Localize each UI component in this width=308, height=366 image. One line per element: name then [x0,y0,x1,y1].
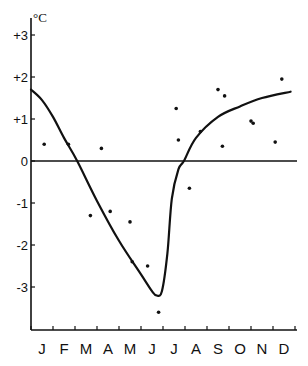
data-point [177,138,181,142]
data-point [146,264,150,268]
data-point [108,210,112,214]
data-points [42,77,283,314]
month-label: A [103,340,113,357]
month-label: S [213,340,223,357]
month-label: A [191,340,201,357]
month-label: J [170,340,178,357]
y-tick-label: +3 [13,28,28,43]
month-label: O [234,340,246,357]
data-point [199,130,203,134]
month-label: D [279,340,290,357]
data-point [280,77,284,81]
y-tick-label: 0 [21,154,28,169]
data-point [130,260,134,264]
y-tick-label: -1 [16,196,28,211]
y-tick-label: -2 [16,238,28,253]
y-tick-label: +1 [13,112,28,127]
data-point [128,220,132,224]
y-tick-label: -3 [16,280,28,295]
month-label: M [80,340,93,357]
month-label: F [59,340,68,357]
data-point [67,142,71,146]
y-axis-unit-label: °C [33,10,47,25]
data-point [273,140,277,144]
month-label: M [124,340,137,357]
data-point [251,121,255,125]
temperature-chart: +3+2+10-1-2-3 JFMAMJJASOND °C [0,0,308,366]
data-point [188,187,192,191]
month-label: J [38,340,46,357]
y-tick-label: +2 [13,70,28,85]
data-point [42,142,46,146]
data-point [216,88,220,92]
data-point [100,147,104,151]
data-point [223,94,227,98]
data-point [89,214,93,218]
month-label: J [148,340,156,357]
data-point [157,310,161,314]
data-point [174,107,178,111]
data-point [221,145,225,149]
month-label: N [257,340,268,357]
